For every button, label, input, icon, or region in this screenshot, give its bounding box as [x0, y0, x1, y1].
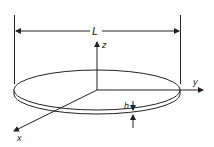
thickness-label: h: [124, 101, 129, 111]
length-label: L: [92, 25, 98, 37]
z-axis-label: z: [101, 40, 107, 50]
y-axis-label: y: [192, 77, 198, 87]
x-axis-label: x: [16, 133, 22, 143]
disk-diagram: L z y x h: [0, 0, 214, 147]
